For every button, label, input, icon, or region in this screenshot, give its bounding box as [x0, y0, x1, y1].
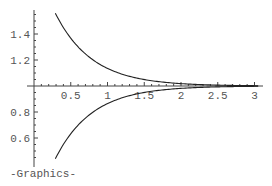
graphics-caption: -Graphics-	[10, 168, 76, 180]
y-tick-label: 0.6	[10, 133, 30, 145]
x-tick-label: 3	[251, 90, 258, 102]
upper-curve	[55, 13, 258, 86]
x-tick-label: 1	[104, 90, 111, 102]
x-tick-label: 0.5	[61, 90, 81, 102]
x-tick-label: 2.5	[208, 90, 228, 102]
x-tick-label: 2	[178, 90, 185, 102]
y-tick-label: 0.8	[10, 107, 30, 119]
axes	[27, 10, 263, 167]
plot-area: 0.511.522.530.60.81.21.4	[0, 0, 272, 186]
lower-curve	[55, 86, 258, 158]
y-tick-label: 1.2	[10, 55, 30, 67]
y-tick-label: 1.4	[10, 29, 30, 41]
